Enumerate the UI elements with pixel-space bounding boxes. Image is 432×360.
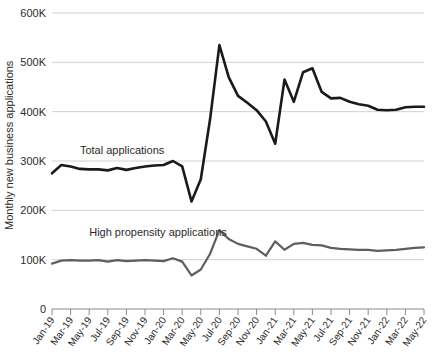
chart-container: 0100K200K300K400K500K600K Jan-19Mar-19Ma… bbox=[0, 0, 432, 360]
y-tick-label: 500K bbox=[20, 56, 46, 68]
y-tick-label: 100K bbox=[20, 254, 46, 266]
series-label-total-applications: Total applications bbox=[80, 144, 165, 156]
y-tick-label: 0 bbox=[40, 303, 46, 315]
series-label-high-propensity-applications: High propensity applications bbox=[89, 226, 227, 238]
y-axis-tick-labels: 0100K200K300K400K500K600K bbox=[20, 7, 46, 315]
x-axis-group bbox=[52, 309, 424, 315]
series-group bbox=[52, 45, 424, 275]
line-chart: 0100K200K300K400K500K600K Jan-19Mar-19Ma… bbox=[0, 0, 432, 360]
y-tick-label: 200K bbox=[20, 204, 46, 216]
x-axis-tick-labels: Jan-19Mar-19May-19Jul-19Sep-19Nov-19Jan-… bbox=[30, 314, 429, 348]
gridlines-group bbox=[52, 13, 424, 309]
y-tick-label: 600K bbox=[20, 7, 46, 19]
series-line-total-applications bbox=[52, 45, 424, 201]
y-tick-label: 300K bbox=[20, 155, 46, 167]
y-axis-title: Monthly new business applications bbox=[3, 60, 15, 230]
y-tick-label: 400K bbox=[20, 106, 46, 118]
